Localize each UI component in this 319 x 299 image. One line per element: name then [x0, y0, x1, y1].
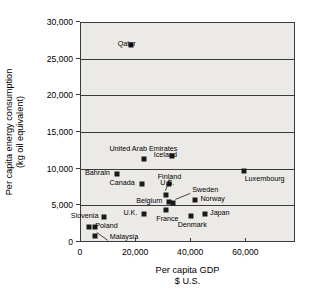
- data-point-label: Denmark: [178, 221, 207, 229]
- data-point-label: Belgium: [136, 197, 162, 205]
- x-tick-label: 40,000: [177, 248, 203, 257]
- y-tick-label: 10,000: [47, 164, 73, 173]
- y-tick-label: 15,000: [47, 128, 73, 137]
- data-point-marker: [92, 234, 97, 239]
- data-point-label: Norway: [200, 195, 224, 203]
- data-point-marker: [193, 197, 198, 202]
- scatter-chart-figure: 05,00010,00015,00020,00025,00030,000 020…: [0, 0, 319, 299]
- gridline: [81, 169, 294, 170]
- data-point-marker: [164, 208, 169, 213]
- data-point-marker: [114, 172, 119, 177]
- y-tick-mark: [76, 21, 80, 22]
- data-point-label: U.K.: [123, 209, 137, 217]
- data-point-marker: [189, 213, 194, 218]
- y-tick-label: 30,000: [47, 18, 73, 27]
- data-point-label: United Arab Emirates: [109, 145, 177, 153]
- data-point-marker: [142, 157, 147, 162]
- plot-area: [80, 22, 295, 242]
- gridline: [81, 95, 294, 96]
- data-point-label: Poland: [95, 222, 117, 230]
- x-axis-title-line2: $ U.S.: [80, 276, 295, 287]
- data-point-label: Japan: [210, 209, 230, 217]
- y-tick-mark: [76, 58, 80, 59]
- y-axis-title: Per capita energy consumption (kg oil eq…: [4, 52, 26, 212]
- data-point-label: Bahrain: [85, 169, 110, 177]
- data-point-marker: [164, 192, 169, 197]
- x-tick-label: 60,000: [232, 248, 258, 257]
- y-tick-mark: [76, 204, 80, 205]
- x-tick-label: 0: [78, 248, 83, 257]
- data-point-label: Finland: [158, 173, 182, 181]
- y-tick-mark: [76, 94, 80, 95]
- data-point-label: Luxembourg: [245, 175, 285, 183]
- data-point-marker: [203, 211, 208, 216]
- y-tick-label: 25,000: [47, 54, 73, 63]
- data-point-label: Canada: [109, 179, 134, 187]
- x-tick-label: 20,000: [122, 248, 148, 257]
- y-axis-title-line1: Per capita energy consumption: [4, 52, 15, 212]
- data-point-label: Malaysia: [110, 233, 138, 241]
- y-axis-title-line2: (kg oil equivalent): [15, 52, 26, 212]
- gridline: [81, 132, 294, 133]
- data-point-marker: [142, 211, 147, 216]
- data-point-marker: [102, 215, 107, 220]
- data-point-label: France: [156, 215, 178, 223]
- data-point-marker: [171, 201, 176, 206]
- data-point-marker: [87, 224, 92, 229]
- y-tick-mark: [76, 241, 80, 242]
- y-tick-mark: [76, 168, 80, 169]
- x-tick-mark: [190, 238, 191, 242]
- gridline: [81, 205, 294, 206]
- data-point-label: Slovenia: [71, 212, 99, 220]
- x-axis-title-line1: Per capita GDP: [80, 265, 295, 276]
- y-tick-label: 5,000: [51, 201, 73, 210]
- x-tick-mark: [245, 238, 246, 242]
- data-point-label: Qatar: [118, 40, 136, 48]
- data-point-marker: [139, 182, 144, 187]
- gridline: [81, 59, 294, 60]
- data-point-marker: [241, 169, 246, 174]
- y-tick-label: 0: [68, 238, 73, 247]
- y-tick-mark: [76, 131, 80, 132]
- x-axis-title: Per capita GDP $ U.S.: [80, 265, 295, 287]
- y-tick-label: 20,000: [47, 91, 73, 100]
